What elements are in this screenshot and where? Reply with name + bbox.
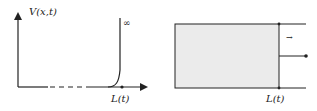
wall-position-label: L(t) xyxy=(265,93,285,104)
y-axis-label: V(x,t) xyxy=(29,6,57,17)
gray-region xyxy=(175,24,279,88)
potential-curve xyxy=(108,18,120,87)
moving-wall-diagram: → L(t) xyxy=(175,23,308,104)
boundary-dot xyxy=(120,85,123,88)
top-corner-dot xyxy=(278,23,281,26)
boundary-label: L(t) xyxy=(110,93,130,104)
middle-dot xyxy=(304,54,308,58)
bottom-corner-dot xyxy=(278,87,281,90)
motion-arrow-icon: → xyxy=(286,33,293,42)
potential-plot: V(x,t) ∞ L(t) xyxy=(18,6,146,104)
infinity-label: ∞ xyxy=(123,18,131,28)
diagram-canvas: V(x,t) ∞ L(t) → L(t) xyxy=(0,0,317,111)
